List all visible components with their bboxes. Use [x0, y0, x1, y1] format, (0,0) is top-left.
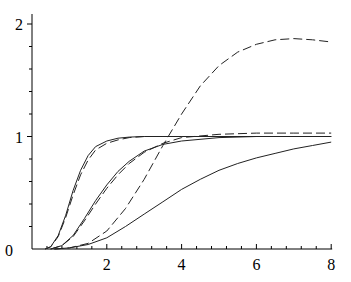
axes	[27, 14, 332, 249]
y-tick-label: 2	[15, 16, 23, 33]
origin-label: 0	[5, 242, 13, 259]
tick-labels: 2468120	[5, 16, 335, 273]
curve-1-solid-line	[45, 137, 331, 250]
curve-3-solid-line	[54, 142, 331, 249]
y-tick-label: 1	[15, 129, 23, 146]
x-tick-label: 8	[327, 256, 335, 273]
curve-3-dashed-line	[54, 39, 331, 249]
curve-1-dashed-line	[45, 137, 331, 250]
x-tick-label: 6	[252, 256, 260, 273]
x-tick-label: 2	[103, 256, 111, 273]
x-tick-label: 4	[178, 256, 186, 273]
series-group	[45, 39, 331, 249]
line-chart: 2468120	[0, 0, 351, 282]
